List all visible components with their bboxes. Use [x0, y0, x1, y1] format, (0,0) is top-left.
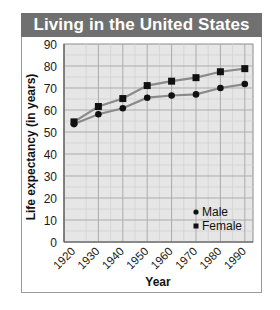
female-data-point	[193, 74, 200, 81]
y-tick-label: 90	[44, 38, 58, 52]
female-data-point	[241, 65, 248, 72]
female-data-point	[217, 68, 224, 75]
legend-female-marker-icon	[194, 224, 199, 229]
legend-female-label: Female	[202, 219, 242, 233]
male-data-point	[168, 92, 175, 99]
y-tick-label: 20	[44, 192, 58, 206]
x-tick-label: 1970	[173, 245, 200, 272]
female-data-point	[71, 118, 78, 125]
y-tick-label: 80	[44, 60, 58, 74]
male-data-point	[144, 94, 151, 101]
legend-male-marker-icon	[193, 209, 198, 214]
male-data-point	[242, 81, 249, 88]
y-axis-ticks: 0102030405060708090	[44, 38, 58, 250]
male-data-point	[193, 91, 200, 98]
female-data-point	[144, 82, 151, 89]
male-data-point	[120, 105, 127, 112]
y-tick-label: 0	[50, 236, 57, 250]
y-tick-label: 40	[44, 148, 58, 162]
y-tick-label: 60	[44, 104, 58, 118]
x-tick-label: 1940	[100, 245, 127, 272]
y-tick-label: 50	[44, 126, 58, 140]
x-tick-label: 1980	[197, 245, 224, 272]
female-data-point	[119, 95, 126, 102]
x-tick-label: 1930	[75, 245, 102, 272]
y-tick-label: 30	[44, 170, 58, 184]
y-axis-label: Life expectancy (in years)	[24, 74, 38, 221]
y-tick-label: 70	[44, 82, 58, 96]
x-axis-ticks: 19201930194019501960197019801990	[51, 245, 248, 272]
male-data-point	[95, 111, 102, 118]
line-chart: 0102030405060708090 19201930194019501960…	[0, 0, 280, 310]
y-tick-label: 10	[44, 214, 58, 228]
x-tick-label: 1950	[124, 245, 151, 272]
x-tick-label: 1960	[148, 245, 175, 272]
female-data-point	[168, 78, 175, 85]
x-tick-label: 1990	[222, 245, 249, 272]
female-data-point	[95, 103, 102, 110]
male-data-point	[217, 85, 224, 92]
x-axis-label: Year	[145, 275, 171, 289]
legend-male-label: Male	[202, 205, 228, 219]
